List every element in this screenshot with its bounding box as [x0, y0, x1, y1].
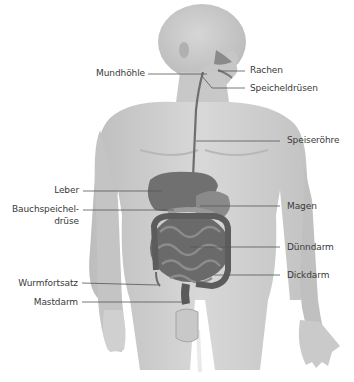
label-mastdarm: Mastdarm [34, 297, 78, 308]
label-bauchspeicheldruese-line1: Bauchspeichel- [12, 204, 79, 215]
label-wurmfortsatz: Wurmfortsatz [18, 278, 78, 289]
label-rachen: Rachen [250, 65, 283, 76]
label-dickdarm: Dickdarm [287, 270, 329, 281]
label-mundhoehle: Mundhöhle [96, 68, 145, 79]
label-speiseroehre: Speiseröhre [287, 135, 339, 146]
label-speicheldruesen: Speicheldrüsen [250, 83, 318, 94]
label-duenndarm: Dünndarm [287, 242, 334, 253]
label-leber: Leber [54, 185, 79, 196]
label-magen: Magen [287, 201, 317, 212]
anatomy-figure [0, 0, 354, 382]
label-bauchspeicheldruese-line2: drüse [54, 216, 79, 227]
